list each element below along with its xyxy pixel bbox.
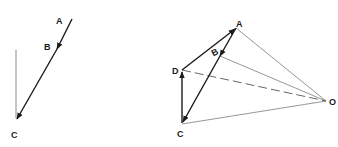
line-b-o (220, 56, 326, 101)
segment-b-c (17, 49, 57, 119)
label-o: O (329, 97, 336, 107)
segment-b-c (183, 56, 220, 122)
line-a-o (236, 28, 326, 101)
vector-diagram: A B C A B C D O (0, 0, 338, 147)
label-b: B (210, 46, 221, 58)
left-figure: A B C (11, 16, 72, 140)
segment-a-b (220, 28, 236, 56)
label-a: A (236, 19, 243, 29)
label-a: A (56, 16, 63, 26)
label-b: B (44, 42, 51, 52)
right-figure: A B C D O (172, 19, 336, 139)
label-c: C (177, 129, 184, 139)
label-c: C (11, 130, 18, 140)
line-c-o (182, 101, 326, 124)
label-d: D (172, 66, 179, 76)
